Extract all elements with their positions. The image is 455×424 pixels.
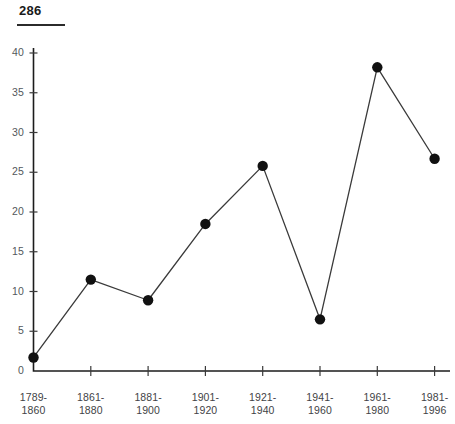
x-tick-label-line: 1881-	[120, 391, 176, 404]
data-point	[86, 274, 96, 284]
data-point	[258, 161, 268, 171]
data-point	[28, 352, 38, 362]
y-tick-label: 40	[2, 46, 24, 58]
data-point	[143, 295, 153, 305]
x-tick-label-line: 1860	[6, 404, 62, 417]
x-tick-label-line: 1941-	[292, 391, 348, 404]
x-tick-label: 1789-1860	[6, 391, 62, 416]
chart-canvas	[0, 0, 455, 424]
line-chart: 0510152025303540 1789-18601861-18801881-…	[0, 0, 455, 424]
data-point	[429, 154, 439, 164]
data-point	[315, 314, 325, 324]
x-tick-label: 1921-1940	[235, 391, 291, 416]
y-tick-label: 0	[2, 364, 24, 376]
x-tick-label-line: 1940	[235, 404, 291, 417]
x-tick-label-line: 1901-	[177, 391, 233, 404]
x-tick-label: 1901-1920	[177, 391, 233, 416]
series-group	[34, 67, 435, 357]
series-line	[34, 67, 435, 357]
x-tick-label: 1941-1960	[292, 391, 348, 416]
axis-lines	[34, 48, 451, 371]
y-tick-label: 30	[2, 126, 24, 138]
x-tick-label-line: 1789-	[6, 391, 62, 404]
x-tick-label: 1861-1880	[63, 391, 119, 416]
chart-axes	[34, 48, 451, 371]
x-tick-label-line: 1880	[63, 404, 119, 417]
x-tick-label-line: 1980	[349, 404, 405, 417]
y-tick-label: 15	[2, 245, 24, 257]
data-point-markers	[28, 62, 440, 363]
x-tick-label-line: 1921-	[235, 391, 291, 404]
y-tick-label: 25	[2, 165, 24, 177]
y-tick-label: 10	[2, 285, 24, 297]
x-tick-label: 1881-1900	[120, 391, 176, 416]
x-tick-label: 1981-1996	[407, 391, 455, 416]
y-tick-label: 35	[2, 86, 24, 98]
x-tick-label-line: 1996	[407, 404, 455, 417]
x-tick-label-line: 1960	[292, 404, 348, 417]
data-point	[372, 62, 382, 72]
y-tick-label: 20	[2, 205, 24, 217]
x-tick-label-line: 1961-	[349, 391, 405, 404]
data-point	[200, 219, 210, 229]
x-tick-label-line: 1981-	[407, 391, 455, 404]
x-tick-label: 1961-1980	[349, 391, 405, 416]
x-tick-label-line: 1920	[177, 404, 233, 417]
x-tick-label-line: 1900	[120, 404, 176, 417]
y-tick-label: 5	[2, 324, 24, 336]
x-tick-label-line: 1861-	[63, 391, 119, 404]
